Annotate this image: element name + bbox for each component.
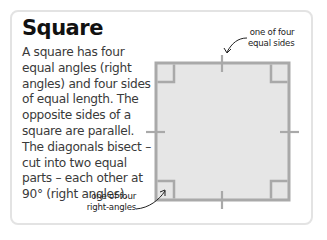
label-right-angles: one of four right-angles xyxy=(82,191,136,213)
label-equal-sides: one of four equal sides xyxy=(248,27,294,49)
square-shape xyxy=(156,63,289,200)
